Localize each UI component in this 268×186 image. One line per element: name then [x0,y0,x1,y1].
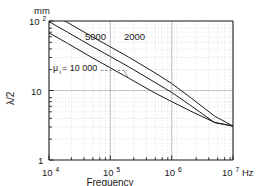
svg-text:5: 5 [117,166,121,173]
svg-text:4: 4 [56,166,60,173]
x-unit-label: Hz [242,167,254,178]
mu-subscript: i [60,69,61,75]
curve-label-2000: 2000 [124,31,145,42]
svg-text:10: 10 [222,167,233,178]
svg-text:10: 10 [29,16,40,27]
x-axis-title: Frequency [86,177,133,186]
y-tick-label-10: 10 [31,86,42,97]
svg-text:10: 10 [165,167,176,178]
mu-value: = 10 000 [62,63,97,73]
svg-text:6: 6 [178,166,182,173]
mu-symbol: μ [53,63,58,73]
y-tick-label-1: 1 [38,155,43,166]
svg-text:2: 2 [43,15,47,22]
curve-label-5000: 5000 [85,31,106,42]
y-axis-title: λ/2 [5,91,16,105]
loglog-chart: mm 10 2 10 1 λ/2 10 4 10 5 10 6 [0,0,268,186]
svg-text:7: 7 [236,166,240,173]
svg-text:10: 10 [42,167,53,178]
chart-page: mm 10 2 10 1 λ/2 10 4 10 5 10 6 [0,0,268,186]
